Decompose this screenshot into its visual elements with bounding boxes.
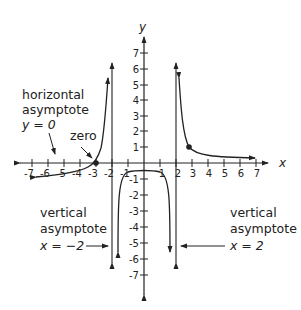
svg-text:x = 2: x = 2 [229, 238, 264, 253]
svg-text:horizontal: horizontal [22, 87, 84, 102]
y-axis-label: y [138, 20, 147, 34]
curve-point [186, 144, 192, 150]
zero-point [93, 160, 99, 166]
svg-text:x = −2: x = −2 [39, 238, 84, 253]
annotation-zero: zero [70, 128, 97, 143]
svg-text:-7: -7 [24, 168, 34, 179]
rational-function-graph: x y -7 -6 -5 -4 -3 -2 -1 1 2 3 4 5 6 7 [0, 0, 301, 310]
y-tick-labels: 7 6 5 4 3 2 1 -1 -2 -3 -4 -5 -6 -7 [129, 48, 139, 281]
svg-text:vertical: vertical [230, 205, 277, 220]
svg-text:3: 3 [190, 168, 196, 179]
svg-text:6: 6 [133, 64, 139, 75]
svg-text:-7: -7 [129, 270, 139, 281]
x-tick-labels: -7 -6 -5 -4 -3 -2 -1 1 2 3 4 5 6 7 [24, 168, 260, 179]
horizontal-asymptote-pointer [49, 133, 55, 154]
svg-text:-6: -6 [129, 254, 139, 265]
x-axis-label: x [278, 156, 287, 170]
svg-text:4: 4 [206, 168, 212, 179]
svg-text:3: 3 [133, 111, 139, 122]
svg-text:asymptote: asymptote [40, 221, 107, 236]
svg-text:y = 0: y = 0 [21, 117, 56, 132]
svg-text:-2: -2 [129, 190, 139, 201]
svg-text:7: 7 [133, 48, 139, 59]
svg-text:5: 5 [222, 168, 228, 179]
svg-text:5: 5 [133, 80, 139, 91]
svg-text:6: 6 [238, 168, 244, 179]
svg-text:-1: -1 [129, 174, 139, 185]
svg-text:asymptote: asymptote [230, 221, 297, 236]
svg-text:1: 1 [133, 142, 139, 153]
svg-text:-3: -3 [129, 206, 139, 217]
svg-text:-4: -4 [129, 222, 139, 233]
svg-text:vertical: vertical [40, 205, 87, 220]
svg-text:asymptote: asymptote [22, 102, 89, 117]
annotation-right-vertical-asymptote: vertical asymptote x = 2 [229, 205, 297, 253]
annotation-horizontal-asymptote: horizontal asymptote y = 0 [21, 87, 89, 132]
svg-text:4: 4 [133, 95, 139, 106]
svg-text:-5: -5 [129, 238, 139, 249]
svg-text:2: 2 [133, 126, 139, 137]
svg-text:-3: -3 [88, 168, 98, 179]
svg-text:-6: -6 [40, 168, 50, 179]
zero-pointer [81, 147, 92, 158]
svg-text:7: 7 [254, 168, 260, 179]
